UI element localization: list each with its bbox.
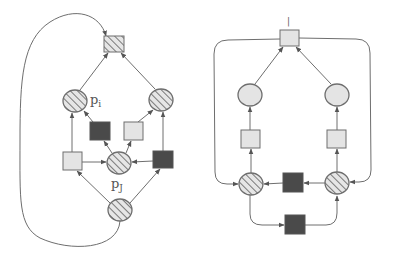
arc	[138, 110, 153, 122]
label-p-j: pJ	[111, 176, 123, 193]
transition-right	[327, 130, 346, 148]
transition-mid-dark	[283, 173, 303, 192]
transition-light-mid	[124, 122, 143, 140]
place-bottom	[108, 199, 132, 221]
transition-dark-mid	[90, 122, 110, 140]
label-p-i: pi	[90, 92, 101, 109]
arc	[305, 196, 337, 225]
transition-top	[280, 30, 299, 46]
frame-arc-left	[214, 39, 280, 184]
frame-arc-right	[299, 38, 371, 182]
place-left-top	[238, 84, 262, 106]
transition-bottom-dark	[285, 215, 305, 234]
left-petri-net	[20, 14, 173, 247]
arc	[264, 183, 283, 184]
arc	[126, 141, 131, 153]
arc	[104, 141, 112, 153]
place-p-i	[63, 90, 87, 112]
place-right-bottom	[325, 172, 349, 194]
arc	[77, 171, 110, 203]
right-petri-net	[214, 30, 371, 234]
place-right	[149, 89, 173, 111]
place-right-top	[325, 84, 349, 106]
arc	[255, 47, 283, 84]
transition-top	[104, 36, 124, 52]
transition-right	[153, 151, 173, 168]
arc	[132, 161, 153, 162]
transition-left	[63, 152, 82, 170]
place-left-bottom	[239, 173, 263, 195]
petri-net-figure: pi pJ |	[0, 0, 393, 265]
label-top-mark: |	[287, 16, 290, 27]
place-p-j	[107, 152, 131, 174]
arc	[80, 53, 108, 90]
transition-left	[241, 130, 260, 148]
arc	[250, 195, 284, 225]
arc	[121, 53, 155, 89]
arc	[130, 169, 160, 203]
arc	[296, 47, 331, 84]
arc	[84, 111, 93, 122]
